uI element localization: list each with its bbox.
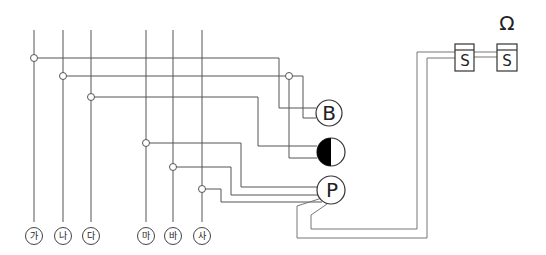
- lamp-symbol: [317, 138, 345, 166]
- wire-ga-buzzer: [34, 58, 316, 108]
- junction-nodes: [31, 55, 293, 193]
- wiring-diagram: B P S S Ω 가 나 다 마 바 사: [0, 0, 546, 255]
- wires: [34, 52, 497, 238]
- terminal-label-ma: 마: [137, 227, 155, 245]
- terminal-label-na: 나: [54, 227, 72, 245]
- terminal-label-da: 다: [82, 227, 100, 245]
- junction-da: [88, 94, 95, 101]
- junction-ga: [31, 55, 38, 62]
- bus-lines: [34, 30, 202, 222]
- junction-branch: [286, 73, 293, 80]
- terminal-label-ga: 가: [25, 227, 43, 245]
- junction-sa: [199, 186, 206, 193]
- junction-na: [60, 73, 67, 80]
- switch-1-label: S: [460, 52, 470, 70]
- junction-ma: [143, 140, 150, 147]
- buzzer-label: B: [322, 101, 336, 125]
- junction-ba: [170, 164, 177, 171]
- terminal-label-ba: 바: [164, 227, 182, 245]
- wire-ba-p: [173, 167, 318, 195]
- wire-da-lamp: [91, 97, 317, 146]
- wiring-svg: [0, 0, 546, 255]
- terminal-label-sa: 사: [193, 227, 211, 245]
- pressure-switch-label: P: [326, 178, 338, 202]
- omega-icon: Ω: [499, 11, 514, 35]
- switch-2-label: S: [502, 52, 512, 70]
